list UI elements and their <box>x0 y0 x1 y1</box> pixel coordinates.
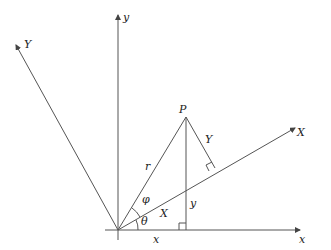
theta-label: θ <box>141 215 148 228</box>
X-segment-label: X <box>159 207 169 220</box>
X-axis-label: X <box>296 126 306 139</box>
right-angle-marker-x <box>179 223 186 230</box>
right-angle-marker-X <box>206 162 212 171</box>
phi-arc <box>132 208 140 217</box>
point-P-label: P <box>178 103 187 116</box>
radius-line <box>118 117 186 230</box>
theta-arc <box>136 220 138 230</box>
x-segment-label: x <box>153 233 160 246</box>
Y-axis-rotated <box>16 45 118 230</box>
Y-segment-label: Y <box>205 133 214 146</box>
y-segment-label: y <box>189 197 197 210</box>
x-axis-label: x <box>299 233 306 246</box>
r-label: r <box>145 160 151 173</box>
Y-axis-label: Y <box>24 38 33 51</box>
phi-label: φ <box>142 193 150 206</box>
rotated-axes-diagram: P y Y X x r φ θ X Y y x <box>0 0 331 250</box>
y-axis-label: y <box>122 11 130 24</box>
